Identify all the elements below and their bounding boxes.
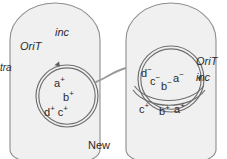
donor-tra-label: tra bbox=[0, 63, 12, 73]
recipient-gene-d-allele: − bbox=[147, 65, 152, 74]
donor-gene-a-plus: a+ bbox=[54, 78, 65, 89]
figure-caption: New bbox=[88, 140, 110, 151]
conjugation-diagram: inc OriT tra a+ b+ d+ c+ OriT inc d− c− … bbox=[0, 0, 227, 159]
transferred-gene-c-allele: + bbox=[145, 101, 150, 110]
diagram-canvas bbox=[0, 0, 227, 159]
donor-inc-label: inc bbox=[55, 27, 69, 38]
recipient-inc-label: inc bbox=[196, 72, 210, 83]
donor-orit-label: OriT bbox=[20, 41, 41, 52]
donor-gene-c-allele: + bbox=[63, 104, 68, 113]
donor-gene-a-allele: + bbox=[60, 75, 65, 84]
donor-gene-d-c-plus: d+ c+ bbox=[44, 107, 68, 118]
donor-gene-d-allele: + bbox=[50, 104, 55, 113]
recipient-orit-label: OriT bbox=[196, 56, 217, 67]
recipient-gene-a-allele: − bbox=[179, 70, 184, 79]
transferred-gene-a-plus: a+ bbox=[174, 104, 185, 115]
transferred-gene-b-allele: + bbox=[165, 103, 170, 112]
donor-gene-b-plus: b+ bbox=[63, 92, 74, 103]
donor-gene-b-allele: + bbox=[69, 89, 74, 98]
recipient-gene-b-allele: − bbox=[167, 78, 172, 87]
recipient-gene-b-minus: b− bbox=[161, 81, 172, 92]
transferred-gene-a-allele: + bbox=[180, 101, 185, 110]
recipient-gene-c-allele: − bbox=[156, 73, 161, 82]
transferred-gene-b-plus: b+ bbox=[159, 106, 170, 117]
transferred-gene-c-plus: c+ bbox=[139, 104, 149, 115]
recipient-gene-a-minus: a− bbox=[173, 73, 184, 84]
recipient-gene-c-minus: c− bbox=[150, 76, 160, 87]
